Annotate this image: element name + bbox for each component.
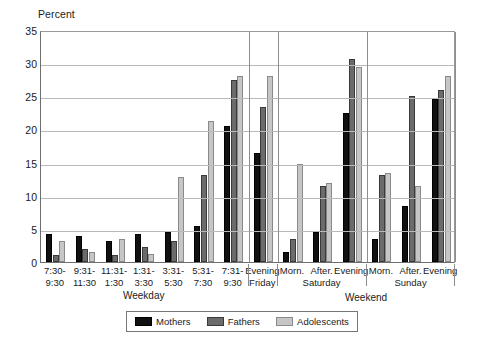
y-tick-label: 25: [3, 91, 37, 103]
bar-fathers: [231, 80, 237, 262]
bar-fathers: [290, 239, 296, 262]
y-tick-label: 15: [3, 158, 37, 170]
bar-fathers: [142, 247, 148, 262]
bar-adolescents: [119, 239, 125, 262]
bar-fathers: [82, 249, 88, 262]
legend-item-adolescents: Adolescents: [276, 316, 349, 327]
bar-adolescents: [445, 76, 451, 262]
bar-fathers: [201, 175, 207, 262]
y-tick-label: 20: [3, 124, 37, 136]
y-tick-label: 30: [3, 58, 37, 70]
bar-mothers: [254, 153, 260, 262]
bar-fathers: [171, 241, 177, 262]
gridline: [41, 131, 454, 132]
group-separator: [455, 32, 456, 262]
bar-adolescents: [89, 252, 95, 262]
bar-mothers: [46, 234, 52, 263]
legend-label-adolescents: Adolescents: [297, 316, 349, 327]
gridline: [41, 231, 454, 232]
group-separator: [249, 32, 250, 262]
bar-chart: Percent 35302520151050 7:30-9:309:31-11:…: [0, 0, 482, 345]
legend-swatch-fathers: [207, 317, 224, 326]
legend-item-fathers: Fathers: [207, 316, 260, 327]
gridline: [41, 65, 454, 66]
legend-swatch-mothers: [135, 317, 152, 326]
y-axis-title: Percent: [38, 8, 75, 20]
bar-adolescents: [297, 164, 303, 262]
legend-swatch-adolescents: [276, 317, 293, 326]
bar-mothers: [313, 232, 319, 262]
bar-fathers: [112, 255, 118, 262]
legend-label-fathers: Fathers: [228, 316, 260, 327]
y-tick-label: 5: [3, 224, 37, 236]
section-label-weekend: Weekend: [316, 292, 416, 303]
bar-adolescents: [385, 173, 391, 262]
group-separator: [278, 32, 279, 262]
bar-mothers: [135, 234, 141, 262]
bar-adolescents: [267, 76, 273, 262]
bar-mothers: [165, 232, 171, 262]
gridline: [41, 198, 454, 199]
bar-fathers: [409, 96, 415, 262]
bars-layer: [41, 32, 454, 262]
bar-mothers: [283, 252, 289, 262]
bar-adolescents: [326, 183, 332, 262]
bar-mothers: [343, 113, 349, 262]
y-tick-label: 0: [3, 257, 37, 269]
bar-adolescents: [148, 254, 154, 262]
bar-adolescents: [208, 121, 214, 262]
bar-adolescents: [237, 76, 243, 262]
chart-legend: Mothers Fathers Adolescents: [126, 311, 358, 332]
bar-fathers: [379, 175, 385, 262]
group-separator: [367, 32, 368, 262]
plot-area: [40, 31, 455, 263]
legend-item-mothers: Mothers: [135, 316, 190, 327]
legend-label-mothers: Mothers: [156, 316, 190, 327]
bar-adolescents: [59, 241, 65, 262]
day-label-saturday: Saturday: [277, 277, 367, 288]
bar-mothers: [372, 239, 378, 262]
y-tick-label: 35: [3, 25, 37, 37]
bar-fathers: [53, 255, 59, 262]
bar-adolescents: [178, 177, 184, 263]
bar-mothers: [76, 236, 82, 262]
bar-mothers: [402, 206, 408, 262]
gridline: [41, 165, 454, 166]
bar-mothers: [432, 99, 438, 262]
section-label-weekday: Weekday: [94, 290, 194, 301]
bar-mothers: [224, 126, 230, 262]
gridline: [41, 98, 454, 99]
day-label-sunday: Sunday: [366, 277, 456, 288]
y-tick-label: 10: [3, 191, 37, 203]
bar-fathers: [438, 90, 444, 262]
bar-fathers: [260, 107, 266, 262]
bar-mothers: [106, 241, 112, 262]
